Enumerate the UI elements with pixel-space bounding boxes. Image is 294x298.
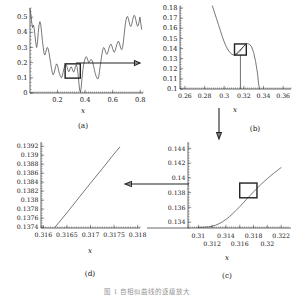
panel-d-plot: 0.3160.31650.3170.31750.3180.13740.13760…: [0, 140, 147, 285]
panel-d-ytick-3: 0.138: [21, 196, 39, 203]
panel-b-ticks: [180, 6, 291, 89]
panel-a-curve-group: [30, 9, 142, 92]
panel-b-ytick-0: 0.1: [167, 85, 178, 93]
panel-a-arrow-right: [76, 61, 140, 66]
panel-a-xtick-2: 0.6: [107, 96, 118, 104]
panel-a-ticklabels: 0.20.40.60.800.10.20.30.40.5: [17, 13, 145, 104]
panel-c-zoom-box: [240, 183, 257, 198]
panel-c-xtick-6: 0.322: [272, 232, 290, 239]
panel-c-ytick-4: 0.142: [168, 159, 186, 166]
panel-a-ytick-0: 0: [23, 89, 27, 97]
panel-b-arrow-down: [217, 108, 222, 139]
panel-c-xtick-1: 0.312: [203, 240, 221, 247]
panel-c-ytick-2: 0.138: [168, 189, 186, 196]
panel-b: 0.260.280.30.320.340.360.10.110.120.130.…: [147, 0, 294, 140]
panel-d-ytick-6: 0.1386: [17, 169, 39, 176]
panel-d-xtick-3: 0.3175: [103, 231, 125, 238]
panel-b-ytick-3: 0.13: [163, 55, 178, 63]
panel-b-xtick-1: 0.28: [198, 92, 212, 99]
panel-b-ytick-4: 0.14: [163, 45, 178, 53]
panel-c-xtick-5: 0.32: [260, 240, 274, 247]
panel-a-ytick-4: 0.4: [17, 28, 28, 36]
panel-a: 0.20.40.60.800.10.20.30.40.5 x (a): [0, 0, 147, 140]
panel-a-xtick-0: 0.2: [52, 96, 63, 104]
zoom-sequence-figure: 0.20.40.60.800.10.20.30.40.5 x (a) 0.260…: [0, 0, 294, 298]
panel-d-ticks: [41, 144, 140, 228]
panel-b-xtick-3: 0.32: [237, 92, 251, 99]
panel-d-ticklabels: 0.3160.31650.3170.31750.3180.13740.13760…: [17, 142, 147, 238]
panel-a-ytick-3: 0.3: [17, 44, 28, 52]
panel-b-ytick-6: 0.16: [163, 24, 178, 32]
panel-c-xtick-4: 0.318: [245, 232, 263, 239]
panel-d-ytick-5: 0.1384: [17, 178, 39, 185]
panel-c-axes: [147, 142, 291, 228]
panel-b-curve-group: [212, 6, 259, 89]
panel-d-xtick-0: 0.316: [34, 231, 52, 238]
panel-b-ytick-1: 0.11: [163, 75, 178, 83]
panel-a-ytick-5: 0.5: [17, 13, 28, 21]
panel-a-curve: [30, 9, 142, 92]
panel-b-ytick-8: 0.18: [163, 4, 178, 12]
panel-a-label: (a): [78, 121, 88, 130]
panel-a-xtick-3: 0.8: [135, 96, 146, 104]
panel-b-xtick-4: 0.34: [257, 92, 271, 99]
panel-d-ytick-9: 0.1392: [17, 142, 39, 149]
panel-b-ytick-5: 0.15: [163, 35, 178, 43]
panel-b-box-diagonal: [235, 44, 247, 55]
panel-c-label: (c): [222, 271, 232, 280]
panel-a-xlabel: x: [81, 106, 85, 115]
panel-b-label: (b): [250, 124, 261, 133]
panel-c-ytick-0: 0.134: [168, 218, 186, 225]
panel-b-xtick-2: 0.3: [219, 92, 229, 99]
panel-b-xlabel: x: [233, 105, 237, 114]
panel-a-ytick-1: 0.1: [17, 74, 28, 82]
panel-a-ytick-2: 0.2: [17, 59, 28, 67]
panel-d-curve-group: [55, 147, 120, 227]
panel-d: 0.3160.31650.3170.31750.3180.13740.13760…: [0, 140, 147, 285]
panel-d-ytick-8: 0.139: [21, 151, 39, 158]
panel-b-xtick-0: 0.26: [178, 92, 192, 99]
panel-b-ticklabels: 0.260.280.30.320.340.360.10.110.120.130.…: [163, 4, 290, 99]
panel-b-axes: [180, 6, 291, 89]
panel-c-ytick-1: 0.136: [168, 204, 186, 211]
panel-b-ytick-7: 0.17: [163, 14, 178, 22]
panel-d-ytick-4: 0.1382: [17, 187, 39, 194]
panel-c-xtick-0: 0.31: [191, 232, 205, 239]
panel-d-xtick-2: 0.317: [82, 231, 100, 238]
figure-caption: 图 1 自相似曲线的逐级放大: [0, 286, 294, 298]
panel-d-label: (d): [85, 269, 96, 278]
panel-c-plot: 0.310.3120.3140.3160.3180.320.3220.1340.…: [147, 140, 294, 285]
panel-c-xtick-2: 0.314: [217, 232, 235, 239]
panel-b-xtick-5: 0.36: [276, 92, 290, 99]
panel-c-xlabel: x: [225, 253, 229, 262]
panel-d-xlabel: x: [88, 246, 92, 255]
panel-d-ytick-0: 0.1374: [17, 223, 39, 230]
panel-b-ytick-2: 0.12: [163, 65, 178, 73]
panel-c-ticks: [188, 144, 288, 228]
panel-d-ytick-2: 0.1378: [17, 205, 39, 212]
panel-c: 0.310.3120.3140.3160.3180.320.3220.1340.…: [147, 140, 294, 285]
panel-c-ytick-5: 0.144: [168, 145, 186, 152]
panel-c-ticklabels: 0.310.3120.3140.3160.3180.320.3220.1340.…: [168, 145, 290, 247]
panel-d-xtick-4: 0.318: [129, 231, 147, 238]
panel-c-xtick-3: 0.316: [231, 240, 249, 247]
panel-d-ytick-1: 0.1376: [17, 214, 39, 221]
panel-d-axes: [41, 142, 140, 228]
panel-b-curve: [212, 6, 259, 89]
panel-a-plot: 0.20.40.60.800.10.20.30.40.5 x (a): [0, 0, 147, 140]
panel-a-xtick-1: 0.4: [80, 96, 91, 104]
panel-d-curve: [55, 147, 120, 227]
panel-d-xtick-1: 0.3165: [56, 231, 78, 238]
panel-c-ytick-3: 0.14: [172, 174, 186, 181]
panel-b-plot: 0.260.280.30.320.340.360.10.110.120.130.…: [147, 0, 294, 140]
panel-d-ytick-7: 0.1388: [17, 160, 39, 167]
